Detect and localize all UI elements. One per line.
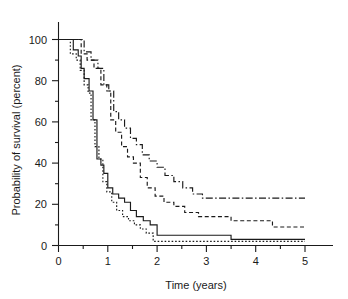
y-tick-label-40: 40 (35, 157, 47, 169)
survival-chart-figure: 0 20 40 60 80 100 0 1 2 3 4 5 Time (year… (0, 0, 348, 299)
survival-curve-dotted (59, 40, 306, 242)
survival-curve-dashdot (59, 40, 306, 199)
x-tick-label-2: 2 (154, 255, 160, 267)
x-axis-ticks (59, 246, 306, 253)
x-tick-label-4: 4 (253, 255, 259, 267)
x-axis-title: Time (years) (165, 279, 226, 291)
survival-curve-solid (59, 40, 306, 240)
y-tick-label-20: 20 (35, 198, 47, 210)
x-tick-label-1: 1 (105, 255, 111, 267)
x-tick-labels: 0 1 2 3 4 5 (55, 255, 308, 267)
y-tick-label-0: 0 (41, 240, 47, 252)
plot-canvas: 0 20 40 60 80 100 0 1 2 3 4 5 Time (year… (0, 0, 348, 299)
y-tick-labels: 0 20 40 60 80 100 (29, 34, 47, 252)
y-axis-ticks (52, 40, 59, 246)
y-tick-label-60: 60 (35, 116, 47, 128)
x-tick-label-5: 5 (302, 255, 308, 267)
y-tick-label-100: 100 (29, 34, 47, 46)
y-axis-title: Probability of survival (percent) (10, 64, 22, 215)
x-tick-label-3: 3 (203, 255, 209, 267)
survival-curves (59, 40, 306, 242)
x-tick-label-0: 0 (55, 255, 61, 267)
y-tick-label-80: 80 (35, 75, 47, 87)
